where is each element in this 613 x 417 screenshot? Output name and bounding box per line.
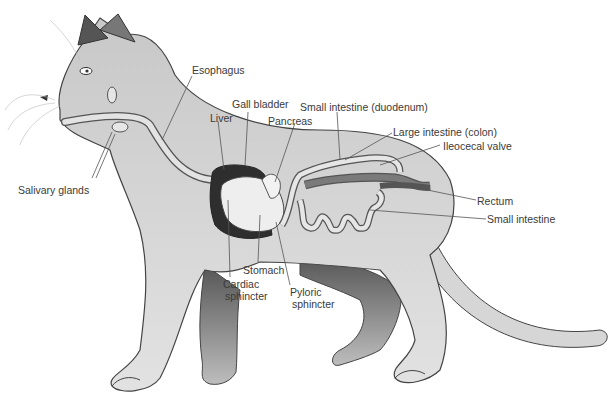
label-esophagus: Esophagus (192, 64, 245, 76)
label-small-intestine: Small intestine (487, 213, 555, 225)
rectum (380, 185, 430, 188)
label-ileocecal-valve: Ileocecal valve (443, 140, 512, 152)
label-salivary-glands: Salivary glands (18, 184, 89, 196)
label-cardiac-sphincter-line1: Cardiac (223, 278, 259, 290)
salivary-gland-upper (108, 87, 117, 103)
label-small-intestine-duodenum: Small intestine (duodenum) (300, 101, 428, 113)
label-rectum: Rectum (477, 195, 513, 207)
label-pyloric-sphincter-line2: sphincter (292, 298, 335, 310)
label-pyloric-sphincter-line1: Pyloric (290, 286, 322, 298)
salivary-gland-lower (112, 122, 128, 132)
label-gall-bladder: Gall bladder (232, 98, 289, 110)
cat-digestive-diagram: Esophagus Liver Gall bladder Pancreas Sm… (0, 0, 613, 417)
label-stomach: Stomach (243, 264, 284, 276)
cat-illustration (0, 0, 613, 417)
label-cardiac-sphincter-line2: sphincter (225, 290, 268, 302)
label-large-intestine-colon: Large intestine (colon) (393, 126, 497, 138)
label-liver: Liver (210, 112, 233, 124)
tail (420, 230, 607, 347)
label-pancreas: Pancreas (268, 115, 312, 127)
